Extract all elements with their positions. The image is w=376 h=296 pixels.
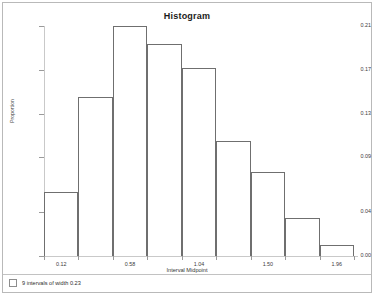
histogram-bar <box>320 245 354 256</box>
status-text: 9 intervals of width 0.23 <box>22 279 81 287</box>
x-tick-mark <box>285 256 286 260</box>
x-tick-mark <box>78 256 79 260</box>
y-axis-label: Proportion <box>9 63 15 123</box>
y-tick-mark <box>39 114 44 115</box>
x-tick-mark <box>44 256 45 260</box>
histogram-bar <box>285 218 319 256</box>
x-tick-mark <box>147 256 148 260</box>
y-tick-mark <box>39 70 44 71</box>
x-tick-mark <box>320 256 321 260</box>
y-tick-label: 0.21 <box>341 22 371 28</box>
x-tick-mark <box>216 256 217 260</box>
histogram-bar <box>182 68 216 256</box>
page-title: Histogram <box>3 11 371 21</box>
chart-window: Histogram Proportion 0.210.170.130.090.0… <box>2 2 372 293</box>
histogram-bar <box>251 172 285 256</box>
x-axis-label: Interval Midpoint <box>3 267 371 273</box>
histogram-plot-panel: Histogram Proportion 0.210.170.130.090.0… <box>3 3 371 275</box>
x-axis-line <box>44 256 358 257</box>
y-tick-label: 0.17 <box>341 66 371 72</box>
y-tick-mark <box>39 157 44 158</box>
status-bar: 9 intervals of width 0.23 <box>3 274 371 292</box>
y-tick-label: 0.09 <box>341 153 371 159</box>
histogram-bar <box>44 192 78 256</box>
x-tick-mark <box>251 256 252 260</box>
histogram-bar <box>113 26 147 256</box>
x-tick-mark <box>113 256 114 260</box>
x-tick-mark <box>182 256 183 260</box>
histogram-bar <box>147 44 181 256</box>
y-tick-label: 0.13 <box>341 110 371 116</box>
x-tick-mark <box>354 256 355 260</box>
y-tick-label: 0.04 <box>341 208 371 214</box>
histogram-bar <box>78 97 112 256</box>
y-tick-mark <box>39 26 44 27</box>
histogram-bar <box>216 141 250 256</box>
intervals-checkbox[interactable] <box>9 279 17 287</box>
